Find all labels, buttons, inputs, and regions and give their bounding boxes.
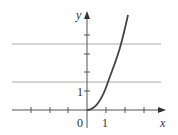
- x-axis-label: x: [159, 116, 166, 130]
- y-axis-label: y: [75, 8, 82, 22]
- origin-label: 0: [77, 116, 83, 130]
- function-curve: [87, 15, 128, 110]
- graph: y x 0 1 1: [0, 0, 178, 135]
- x-axis-arrow-icon: [158, 107, 166, 113]
- y-tick-label-1: 1: [77, 85, 83, 99]
- y-axis-arrow-icon: [84, 11, 90, 19]
- x-tick-label-1: 1: [102, 116, 108, 130]
